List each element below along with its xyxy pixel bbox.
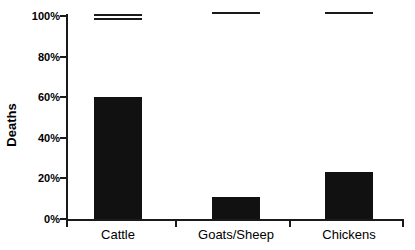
bar-goats-sheep [212,16,260,219]
y-axis-tick-labels: 0% 20% 40% 60% 80% 100% [18,16,60,219]
bar-chickens-segment-black [325,172,373,219]
x-axis-tick-start [66,221,68,227]
bar-goats-sheep-segment-black [212,197,260,219]
x-category-label-chickens: Chickens [289,228,409,241]
x-axis-tick-2 [289,221,291,227]
y-tick-label-0: 0% [18,214,60,225]
bar-cattle [94,16,142,219]
bar-chickens [325,16,373,219]
plot-area [66,16,404,219]
bar-cattle-segment-black [94,97,142,219]
x-axis-tick-1 [175,221,177,227]
x-category-label-goats-sheep: Goats/Sheep [176,228,296,241]
y-tick-label-80: 80% [18,51,60,62]
x-axis-category-labels: Cattle Goats/Sheep Chickens [66,228,404,248]
y-tick-label-20: 20% [18,173,60,184]
bar-chickens-segment-white [325,12,373,172]
bar-cattle-segment-white [94,18,142,97]
bar-goats-sheep-segment-white [212,12,260,197]
y-tick-label-100: 100% [18,11,60,22]
y-tick-label-60: 60% [18,92,60,103]
bar-cattle-segment-top-thin [94,14,142,18]
x-category-label-cattle: Cattle [58,228,178,241]
x-axis-line [66,219,404,221]
y-tick-label-40: 40% [18,132,60,143]
x-axis-tick-end [402,221,404,227]
stacked-bar-chart: Deaths 0% 20% 40% 60% 80% 100% C [0,0,415,250]
